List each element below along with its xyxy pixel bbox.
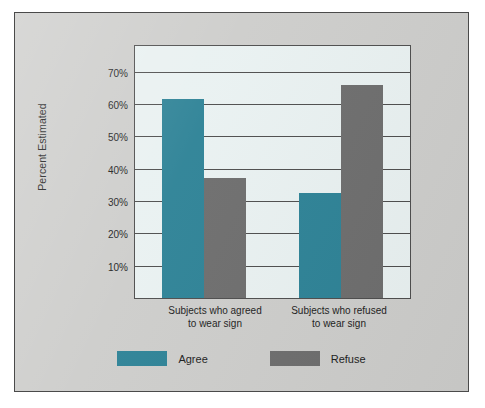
x-axis-category-label-line: Subjects who refused <box>264 305 414 318</box>
chart-figure: Percent Estimated 10%20%30%40%50%60%70% … <box>14 12 469 392</box>
y-axis-tick-label: 30% <box>108 197 128 208</box>
y-axis-title: Percent Estimated <box>36 77 48 217</box>
legend-item-agree: Agree <box>117 351 207 366</box>
chart-legend: Agree Refuse <box>15 351 468 366</box>
bar-refuse-group0 <box>204 178 246 298</box>
x-axis-category-label: Subjects who refused to wear sign <box>264 305 414 330</box>
y-axis-tick-label: 50% <box>108 132 128 143</box>
bar-agree-group1 <box>299 193 341 298</box>
legend-swatch-icon <box>117 351 167 366</box>
legend-swatch-icon <box>270 351 320 366</box>
y-axis-tick-label: 40% <box>108 164 128 175</box>
y-axis-tick-label: 70% <box>108 67 128 78</box>
y-axis-tick-label: 60% <box>108 100 128 111</box>
y-axis-tick-label: 10% <box>108 261 128 272</box>
legend-label: Agree <box>178 353 207 365</box>
plot-area: 10%20%30%40%50%60%70% <box>134 45 411 299</box>
bar-agree-group0 <box>162 99 204 298</box>
legend-label: Refuse <box>331 353 366 365</box>
x-axis-category-label-line: to wear sign <box>264 318 414 331</box>
bar-refuse-group1 <box>341 85 383 298</box>
y-axis-tick-label: 20% <box>108 229 128 240</box>
y-gridline: 70% <box>135 72 410 73</box>
legend-item-refuse: Refuse <box>270 351 366 366</box>
